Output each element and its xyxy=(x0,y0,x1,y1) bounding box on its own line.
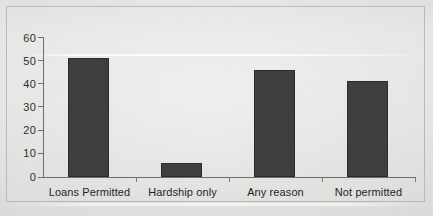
y-axis-line xyxy=(43,37,44,178)
y-tick-mark xyxy=(38,37,43,38)
y-tick-50: 50 xyxy=(0,55,36,67)
x-category-label-hardship-only: Hardship only xyxy=(136,186,229,198)
bar-hardship-only xyxy=(161,163,202,177)
y-tick-mark xyxy=(38,130,43,131)
y-tick-10: 10 xyxy=(0,147,36,159)
x-category-label-any-reason: Any reason xyxy=(229,186,322,198)
y-tick-label: 20 xyxy=(6,124,36,136)
x-category-label-not-permitted: Not permitted xyxy=(322,186,415,198)
y-tick-label: 50 xyxy=(6,55,36,67)
bar-not-permitted xyxy=(347,81,388,177)
y-tick-label: 10 xyxy=(6,147,36,159)
x-tick-mark xyxy=(322,178,323,182)
x-category-label-loans-permitted: Loans Permitted xyxy=(43,186,136,198)
y-tick-mark xyxy=(38,106,43,107)
y-tick-mark xyxy=(38,153,43,154)
x-tick-mark xyxy=(136,178,137,182)
bar-chart-figure: 60 50 40 30 20 10 0 xyxy=(0,0,433,216)
y-tick-label: 40 xyxy=(6,78,36,90)
y-tick-60: 60 xyxy=(0,32,36,44)
bar-loans-permitted xyxy=(68,58,109,177)
bar-any-reason xyxy=(254,70,295,177)
y-tick-label: 60 xyxy=(6,32,36,44)
y-tick-label: 30 xyxy=(6,101,36,113)
x-tick-mark xyxy=(415,178,416,182)
y-tick-30: 30 xyxy=(0,101,36,113)
y-tick-mark xyxy=(38,83,43,84)
y-tick-20: 20 xyxy=(0,124,36,136)
y-tick-40: 40 xyxy=(0,78,36,90)
y-tick-mark xyxy=(38,177,43,178)
y-tick-label: 0 xyxy=(6,171,36,183)
y-tick-0: 0 xyxy=(0,171,36,183)
y-tick-mark xyxy=(38,60,43,61)
plot-area: 60 50 40 30 20 10 0 xyxy=(0,0,433,216)
x-tick-mark xyxy=(229,178,230,182)
